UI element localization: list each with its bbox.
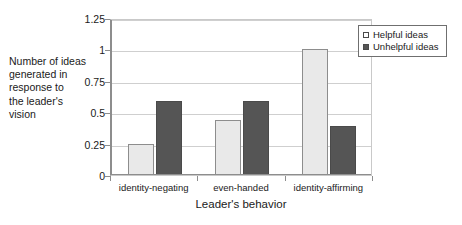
dark-square-swatch-icon (363, 44, 369, 50)
gridline (111, 51, 371, 52)
gridline (111, 20, 371, 21)
x-category-label-identity-affirming: identity-affirming (285, 182, 372, 193)
bar-helpful-even-handed (215, 120, 241, 175)
y-tick-label: 0.75 (57, 77, 105, 88)
x-axis-line (111, 174, 371, 175)
x-category-label-even-handed: even-handed (197, 182, 284, 193)
x-tick-mark (110, 176, 111, 181)
legend-label: Helpful ideas (373, 29, 428, 41)
y-axis-line (111, 20, 112, 175)
y-axis-title-line: Number of ideas (9, 55, 101, 68)
x-tick-mark (197, 176, 198, 181)
x-category-label-identity-negating: identity-negating (110, 182, 197, 193)
bar-helpful-identity-negating (128, 144, 154, 175)
legend-item-helpful: Helpful ideas (363, 29, 442, 41)
y-axis-title-line: the leader's (9, 95, 101, 108)
x-tick-mark (372, 176, 373, 181)
bar-chart-figure: Number of ideas generated in response to… (0, 0, 462, 225)
legend-item-unhelpful: Unhelpful ideas (363, 41, 442, 53)
y-tick-label: 1.25 (57, 14, 105, 25)
y-tick-label: 0 (57, 171, 105, 182)
bar-unhelpful-identity-negating (156, 101, 182, 175)
x-tick-mark (285, 176, 286, 181)
chart-legend: Helpful ideas Unhelpful ideas (358, 25, 447, 57)
bar-unhelpful-identity-affirming (330, 126, 356, 175)
gridline (111, 83, 371, 84)
gridline (111, 114, 371, 115)
y-tick-label: 0.5 (57, 108, 105, 119)
plot-area (110, 19, 372, 176)
y-tick-label: 1 (57, 45, 105, 56)
bar-unhelpful-even-handed (243, 101, 269, 175)
x-axis-title: Leader's behavior (110, 198, 372, 210)
light-square-swatch-icon (363, 32, 369, 38)
y-tick-label: 0.25 (57, 140, 105, 151)
bar-helpful-identity-affirming (302, 49, 328, 175)
legend-label: Unhelpful ideas (373, 41, 439, 53)
